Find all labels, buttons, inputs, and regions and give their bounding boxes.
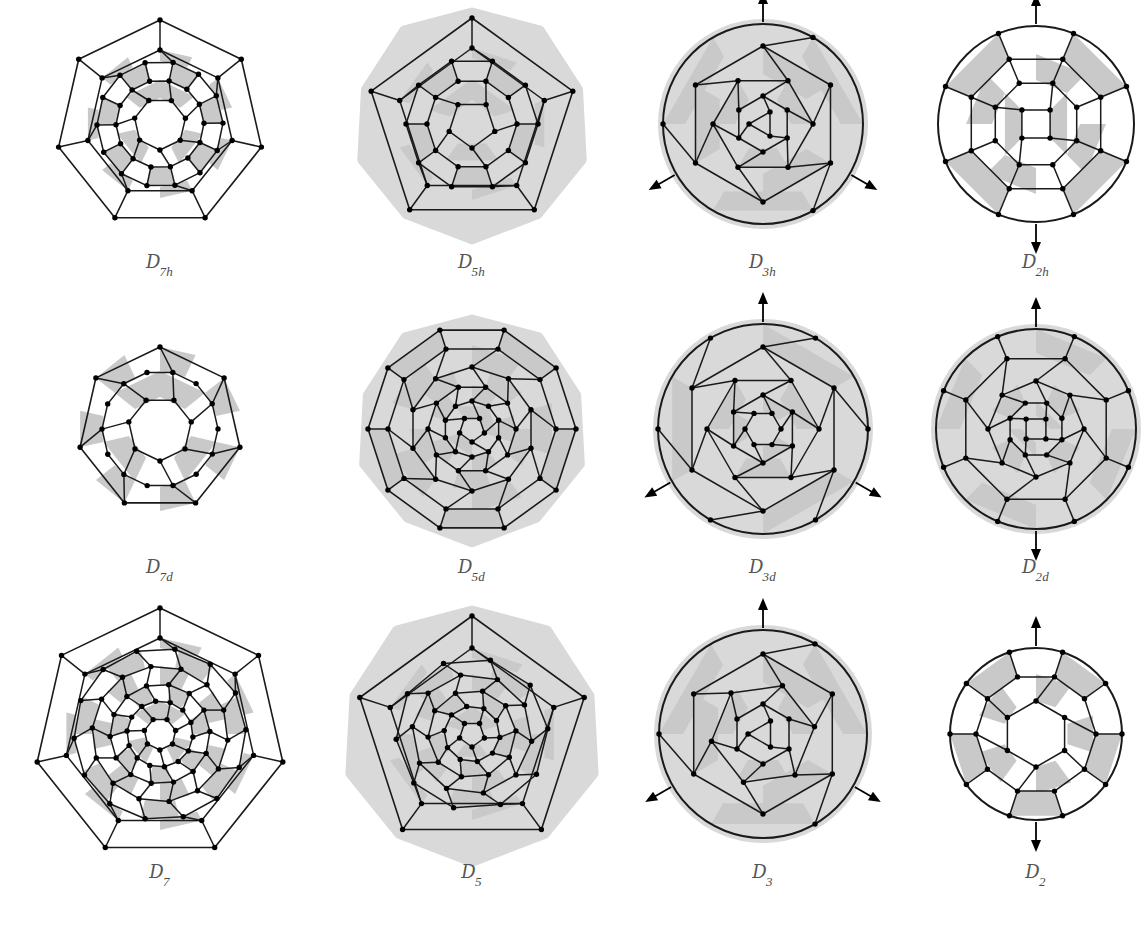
figure-panel-d5: D5 [320, 610, 624, 920]
vertex-1-1 [828, 82, 833, 87]
vertex-2-0 [170, 60, 175, 65]
point-group-symbol: D [458, 251, 473, 272]
vertex-4-0 [166, 682, 171, 687]
vertex-3-0 [166, 78, 171, 83]
vertex-1-9 [443, 346, 448, 351]
vertex-1-3 [537, 476, 542, 481]
vertex-5-10 [124, 728, 129, 733]
vertex-2-1 [528, 682, 533, 687]
vertex-0-5 [35, 759, 40, 764]
vertex-4-2 [496, 418, 501, 423]
vertex-2-12 [100, 667, 105, 672]
vertex-1-0 [157, 47, 162, 52]
vertex-4-8 [128, 772, 133, 777]
spoke-3-3 [160, 150, 171, 167]
vertex-5-5 [176, 759, 181, 764]
vertex-4-12 [124, 694, 129, 699]
symmetry-axis-arrowhead-1 [869, 487, 882, 497]
vertex-5-13 [153, 699, 158, 704]
spoke-0-3 [202, 821, 215, 848]
vertex-0-0 [1072, 334, 1077, 339]
vertex-4-9 [453, 404, 458, 409]
vertex-2-3 [741, 780, 746, 785]
vertex-3-2 [221, 707, 226, 712]
vertex-2-6 [433, 477, 438, 482]
vertex-0-2 [660, 121, 665, 126]
vertex-4-0 [469, 398, 474, 403]
vertex-1-4 [210, 451, 215, 456]
spoke-3-1 [185, 104, 199, 118]
vertex-4-4 [455, 102, 460, 107]
vertex-2-5 [728, 690, 733, 695]
gray-face-0 [946, 34, 1010, 98]
schlegel-diagram-d5d [334, 291, 610, 567]
vertex-1-5 [689, 385, 694, 390]
vertex-1-7 [1007, 57, 1012, 62]
vertex-1-2 [553, 426, 558, 431]
vertex-2-7 [1017, 81, 1022, 86]
vertex-2-0 [490, 59, 495, 64]
vertex-1-3 [199, 818, 204, 823]
spoke-2-0 [1050, 83, 1053, 110]
vertex-3-3 [760, 761, 765, 766]
vertex-4-4 [137, 137, 142, 142]
spoke-1-5 [694, 693, 731, 694]
spoke-2-3 [516, 774, 537, 775]
vertex-4-2 [745, 731, 750, 736]
ring-outline-2 [1007, 701, 1064, 767]
vertex-5-11 [129, 714, 134, 719]
vertex-1-4 [1007, 186, 1012, 191]
vertex-4-3 [157, 147, 162, 152]
vertex-5-7 [442, 728, 447, 733]
vertex-3-1 [1047, 135, 1052, 140]
vertex-2-9 [441, 661, 446, 666]
vertex-0-2 [237, 445, 242, 450]
vertex-1-1 [1098, 95, 1103, 100]
vertex-1-1 [193, 381, 198, 386]
vertex-5-0 [481, 706, 486, 711]
vertex-0-4 [357, 695, 362, 700]
vertex-1-2 [830, 771, 835, 776]
spoke-0-6 [62, 655, 85, 674]
vertex-2-0 [1050, 81, 1055, 86]
schlegel-diagram-d3 [625, 596, 901, 872]
point-group-symbol: D [1022, 556, 1037, 577]
diagram-holder-d5 [320, 610, 624, 858]
spoke-3-1 [506, 705, 525, 706]
point-group-subscript: 7h [160, 264, 173, 279]
vertex-5-6 [162, 764, 167, 769]
vertex-3-12 [129, 87, 134, 92]
spoke-2-8 [408, 693, 429, 694]
point-group-subscript: 2h [1036, 264, 1049, 279]
vertex-2-5 [999, 460, 1004, 465]
vertex-3-3 [505, 452, 510, 457]
vertex-0-5 [708, 335, 713, 340]
vertex-1-2 [828, 160, 833, 165]
vertex-1-3 [760, 811, 765, 816]
vertex-1-2 [514, 183, 519, 188]
vertex-0-2 [656, 731, 661, 736]
spoke-3-11 [102, 699, 114, 715]
vertex-0-4 [1060, 813, 1065, 818]
point-group-symbol: D [1022, 251, 1037, 272]
vertex-3-6 [433, 148, 438, 153]
vertex-1-0 [1052, 674, 1057, 679]
point-group-subscript: 2 [1039, 874, 1046, 889]
vertex-2-5 [449, 184, 454, 189]
vertex-1-6 [170, 483, 175, 488]
vertex-1-9 [1015, 674, 1020, 679]
vertex-1-6 [985, 767, 990, 772]
vertex-1-5 [691, 691, 696, 696]
vertex-3-4 [216, 766, 221, 771]
symmetry-axis-arrowhead-2 [644, 487, 657, 497]
spoke-0-5 [59, 141, 88, 148]
vertex-2-3 [220, 120, 225, 125]
vertex-2-6 [985, 426, 990, 431]
vertex-1-6 [969, 95, 974, 100]
point-group-symbol: D [461, 861, 476, 882]
vertex-4-5 [469, 454, 474, 459]
vertex-0-1 [570, 89, 575, 94]
vertex-3-6 [434, 452, 439, 457]
vertex-0-1 [812, 821, 817, 826]
vertex-1-2 [210, 401, 215, 406]
